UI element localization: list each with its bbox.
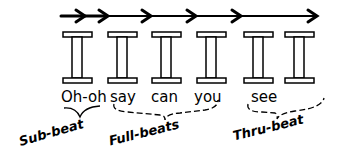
arrows	[61, 10, 317, 22]
lyric-see: see	[251, 88, 277, 106]
lyric-say: say	[110, 88, 136, 106]
pillars	[63, 32, 314, 83]
beat-diagram: Oh-oh say can you see Sub-beat Full-beat…	[0, 0, 339, 159]
lyric-oh-oh: Oh-oh	[61, 88, 107, 106]
lyric-you: you	[194, 88, 222, 106]
lyric-can: can	[151, 88, 178, 106]
